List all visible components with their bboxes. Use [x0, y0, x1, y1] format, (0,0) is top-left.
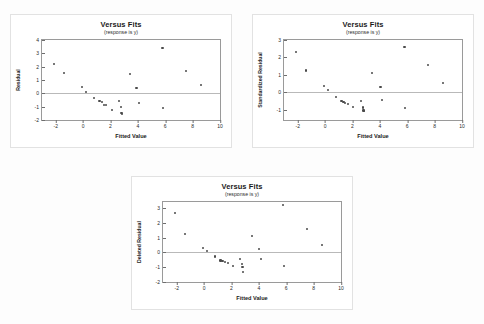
chart-title: Versus Fits [132, 182, 352, 191]
x-axis-tick: 2 [109, 120, 112, 129]
zero-reference-line [284, 92, 462, 93]
x-axis-tick: 6 [406, 120, 409, 129]
y-axis-tick: 0 [157, 249, 163, 255]
chart-panel-deleted-residual: Versus Fits (response is y) Deleted Resi… [131, 176, 353, 310]
data-point [242, 271, 244, 273]
data-point [118, 100, 120, 102]
y-axis-tick: 1 [36, 77, 42, 83]
x-axis-tick: 4 [257, 282, 260, 291]
x-axis-tick: 10 [217, 120, 223, 129]
data-point [305, 69, 307, 71]
x-axis-tick: -2 [53, 120, 57, 129]
data-point [260, 258, 262, 260]
data-point [224, 261, 226, 263]
data-point [121, 113, 123, 115]
x-axis-tick: 8 [312, 282, 315, 291]
y-axis-label-text: Residual [15, 69, 21, 91]
data-point [232, 265, 234, 267]
data-point [282, 204, 284, 206]
data-point [105, 104, 107, 106]
chart-subtitle: (response is y) [132, 191, 352, 197]
data-point [200, 84, 202, 86]
plot-area: 3210-1-20246810 [283, 39, 463, 121]
data-point [85, 91, 87, 93]
y-axis-tick: -1 [277, 107, 284, 113]
data-point [184, 233, 186, 235]
y-axis-label-text: Deleted Residual [136, 221, 142, 263]
x-axis-tick: 4 [378, 120, 381, 129]
x-axis-label: Fitted Value [283, 133, 463, 139]
data-point [162, 107, 164, 109]
data-point [427, 64, 429, 66]
y-axis-label-text: Standardized Residual [257, 52, 263, 108]
data-point [251, 235, 253, 237]
data-point [327, 89, 329, 91]
data-point [371, 72, 373, 74]
y-axis-tick: 2 [36, 64, 42, 70]
data-point [63, 72, 65, 74]
y-axis-tick: 2 [278, 54, 284, 60]
chart-panel-residual: Versus Fits (response is y) Residual 432… [10, 14, 232, 148]
x-axis-tick: 0 [324, 120, 327, 129]
y-axis-tick: 2 [157, 220, 163, 226]
data-point [239, 258, 241, 260]
data-point [362, 106, 364, 108]
chart-title: Versus Fits [253, 20, 473, 29]
data-point [53, 63, 55, 65]
chart-title: Versus Fits [11, 20, 231, 29]
data-point [161, 47, 163, 49]
x-axis-tick: 6 [285, 282, 288, 291]
data-point [344, 102, 346, 104]
data-point [335, 96, 337, 98]
data-point [174, 212, 176, 214]
y-axis-label: Standardized Residual [255, 39, 265, 121]
x-axis-tick: -2 [174, 282, 178, 291]
data-point [295, 51, 297, 53]
x-axis-tick: 10 [459, 120, 465, 129]
chart-subtitle: (response is y) [253, 29, 473, 35]
y-axis-tick: -1 [35, 104, 42, 110]
x-axis-label: Fitted Value [162, 295, 342, 301]
x-axis-tick: 4 [136, 120, 139, 129]
chart-panel-standardized-residual: Versus Fits (response is y) Standardized… [252, 14, 474, 148]
data-point [135, 87, 137, 89]
data-point [111, 109, 113, 111]
data-point [442, 82, 444, 84]
data-point [101, 101, 103, 103]
x-axis-tick: 10 [338, 282, 344, 291]
y-axis-tick: -2 [156, 279, 163, 285]
plot-area: 3210-1-2-20246810 [162, 201, 342, 283]
data-point [404, 107, 406, 109]
document-page: Versus Fits (response is y) Residual 432… [0, 0, 484, 324]
y-axis-tick: 3 [157, 205, 163, 211]
x-axis-tick: 8 [191, 120, 194, 129]
data-point [185, 70, 187, 72]
x-axis-tick: 2 [351, 120, 354, 129]
data-point [93, 97, 95, 99]
zero-reference-line [163, 252, 341, 253]
x-axis-tick: -2 [295, 120, 299, 129]
y-axis-label: Residual [13, 39, 23, 121]
y-axis-label: Deleted Residual [134, 201, 144, 283]
data-point [258, 248, 260, 250]
data-point [379, 86, 381, 88]
x-axis-label: Fitted Value [41, 133, 221, 139]
chart-subtitle: (response is y) [11, 29, 231, 35]
data-point [202, 247, 204, 249]
y-axis-tick: 3 [36, 50, 42, 56]
y-axis-tick: 4 [36, 37, 42, 43]
data-point [283, 265, 285, 267]
x-axis-tick: 2 [230, 282, 233, 291]
data-point [227, 262, 229, 264]
data-point [241, 263, 243, 265]
x-axis-tick: 8 [433, 120, 436, 129]
y-axis-tick: -2 [35, 117, 42, 123]
y-axis-tick: 0 [36, 90, 42, 96]
data-point [352, 106, 354, 108]
data-point [206, 250, 208, 252]
data-point [347, 103, 349, 105]
data-point [120, 106, 122, 108]
x-axis-tick: 0 [82, 120, 85, 129]
data-point [241, 266, 243, 268]
data-point [138, 102, 140, 104]
